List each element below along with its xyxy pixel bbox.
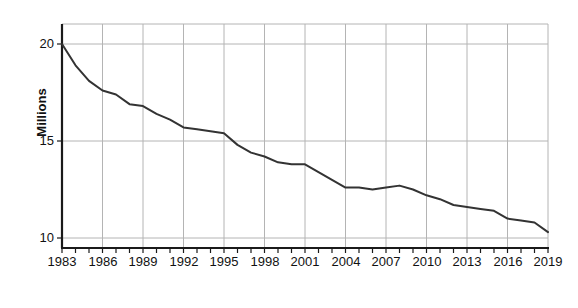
grid-lines: [62, 24, 548, 248]
plot-area: [0, 0, 578, 308]
line-chart: Millions 20 15 10 1983 1986 1989 1992 19…: [0, 0, 578, 308]
